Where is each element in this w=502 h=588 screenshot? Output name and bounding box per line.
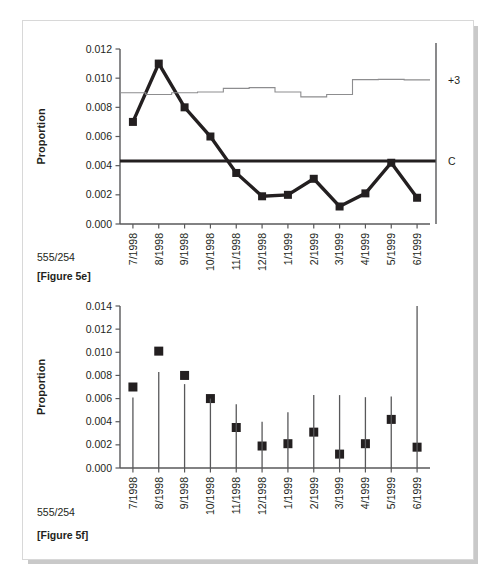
x-tick-label: 1/1999: [282, 233, 294, 265]
y-tick-label: 0.006: [86, 392, 112, 404]
right-axis-annotation: C: [448, 155, 456, 167]
y-tick-label: 0.010: [86, 72, 112, 84]
x-tick-label: 12/1998: [256, 233, 268, 271]
x-tick-label: 9/1998: [178, 477, 190, 509]
x-tick-label: 2/1999: [308, 477, 320, 509]
y-tick-label: 0.012: [86, 43, 112, 55]
y-tick-label: 0.006: [86, 130, 112, 142]
data-point-marker: [181, 103, 189, 111]
y-tick-label: 0.002: [86, 438, 112, 450]
x-tick-label: 10/1998: [204, 477, 216, 515]
right-axis-annotation: +3: [448, 74, 460, 86]
y-tick-label: 0.004: [86, 159, 112, 171]
data-point-marker: [155, 60, 163, 68]
y-tick-label: 0.014: [86, 300, 112, 312]
data-point-marker: [413, 194, 421, 202]
data-point-marker: [206, 133, 214, 141]
series-line: [133, 64, 417, 207]
x-tick-label: 4/1999: [359, 233, 371, 265]
x-tick-label: 6/1999: [411, 477, 423, 509]
figure-5e-ratio-label: 555/254: [37, 251, 75, 263]
x-tick-label: 3/1999: [333, 477, 345, 509]
y-tick-label: 0.000: [86, 218, 112, 230]
x-tick-label: 1/1999: [282, 477, 294, 509]
y-tick-label: 0.000: [86, 462, 112, 474]
y-tick-label: 0.002: [86, 188, 112, 200]
y-tick-label: 0.012: [86, 323, 112, 335]
x-tick-label: 10/1998: [204, 233, 216, 271]
x-tick-label: 4/1999: [359, 477, 371, 509]
y-tick-label: 0.008: [86, 101, 112, 113]
page-sheet: 0.0000.0020.0040.0060.0080.0100.012Propo…: [22, 20, 474, 560]
x-tick-label: 5/1999: [385, 477, 397, 509]
figure-5e-plot: 0.0000.0020.0040.0060.0080.0100.012Propo…: [23, 21, 473, 286]
x-tick-label: 3/1999: [333, 233, 345, 265]
x-tick-label: 8/1998: [153, 477, 165, 509]
x-tick-label: 11/1998: [230, 477, 242, 514]
data-point-marker: [284, 191, 292, 199]
figure-5f-ratio-label: 555/254: [37, 506, 75, 518]
data-point-marker: [361, 189, 369, 197]
figure-5f-plot: 0.0000.0020.0040.0060.0080.0100.0120.014…: [23, 293, 473, 523]
data-point-marker: [129, 118, 137, 126]
figure-5e: 0.0000.0020.0040.0060.0080.0100.012Propo…: [23, 21, 473, 286]
figure-5f-caption: [Figure 5f]: [37, 529, 88, 541]
figure-5f: 0.0000.0020.0040.0060.0080.0100.0120.014…: [23, 293, 473, 523]
data-point-marker: [232, 169, 240, 177]
upper-control-limit-step: [120, 79, 430, 97]
data-point-marker: [310, 175, 318, 183]
data-point-marker: [128, 383, 137, 392]
data-point-marker: [180, 371, 189, 380]
data-point-marker: [336, 203, 344, 211]
data-point-marker: [154, 347, 163, 356]
figure-5e-caption: [Figure 5e]: [37, 270, 91, 282]
y-tick-label: 0.004: [86, 415, 112, 427]
x-tick-label: 6/1999: [411, 233, 423, 265]
y-tick-label: 0.010: [86, 346, 112, 358]
y-axis-title: Proportion: [35, 108, 47, 164]
y-axis-title: Proportion: [35, 359, 47, 415]
x-tick-label: 2/1999: [308, 233, 320, 265]
x-tick-label: 7/1998: [127, 233, 139, 265]
x-tick-label: 8/1998: [153, 233, 165, 265]
x-tick-label: 7/1998: [127, 477, 139, 509]
x-tick-label: 9/1998: [178, 233, 190, 265]
x-tick-label: 5/1999: [385, 233, 397, 265]
x-tick-label: 11/1998: [230, 233, 242, 270]
x-tick-label: 12/1998: [256, 477, 268, 515]
y-tick-label: 0.008: [86, 369, 112, 381]
data-point-marker: [258, 192, 266, 200]
